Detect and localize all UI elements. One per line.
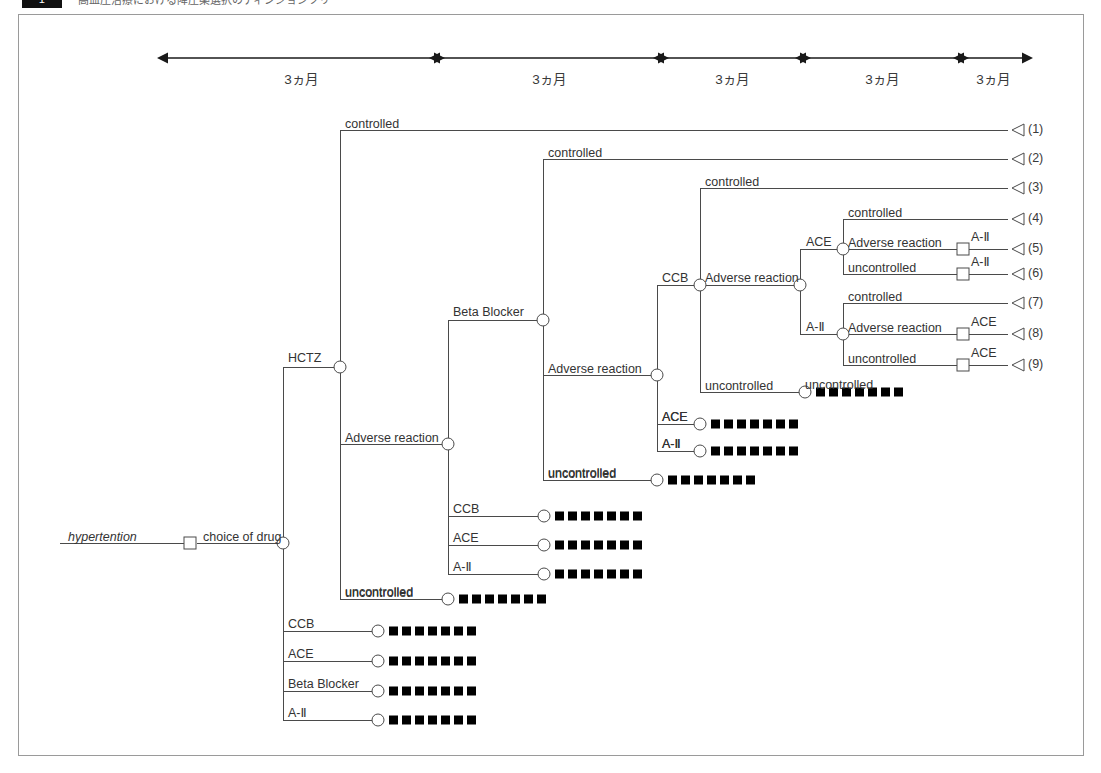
terminal-row-label-hctz-adverse-ccb: CCB <box>453 503 479 516</box>
terminal-row-label-hctz-adverse-ace: ACE <box>453 532 479 545</box>
outcome-label-2: (2) <box>1028 152 1043 165</box>
terminal-row-label-root-ace: ACE <box>288 648 314 661</box>
hctz-controlled-label: controlled <box>345 118 399 131</box>
timeline-label-2: 3ヵ月 <box>532 68 566 88</box>
ccb-controlled-label: controlled <box>705 176 759 189</box>
a2-controlled-label: controlled <box>848 291 902 304</box>
hctz-adverse-label: Adverse reaction <box>345 432 439 445</box>
terminal-row-label-root-beta-blocker: Beta Blocker <box>288 678 359 691</box>
decision-tree-canvas <box>0 0 1101 773</box>
a2-adverse-label: Adverse reaction <box>848 322 942 335</box>
terminal-row-label-root-ccb: CCB <box>288 618 314 631</box>
square-terminal-label-ace-uncontrolled-a2: A-Ⅱ <box>971 256 990 269</box>
outcome-label-9: (9) <box>1028 358 1043 371</box>
terminal-row-label-hctz-adverse-a2: A-Ⅱ <box>453 561 472 574</box>
a2-branch-label: A-Ⅱ <box>806 321 825 334</box>
bb-adverse-label: Adverse reaction <box>548 363 642 376</box>
square-terminal-label-ace-adverse-a2: A-Ⅱ <box>971 231 990 244</box>
bb-label: Beta Blocker <box>453 306 524 319</box>
ccb-uncontrolled-label: uncontrolled <box>705 380 773 393</box>
ace-adverse-label: Adverse reaction <box>848 237 942 250</box>
square-terminal-label-a2-adverse-ace: ACE <box>971 316 997 329</box>
outcome-label-3: (3) <box>1028 181 1043 194</box>
timeline-label-5: 3ヵ月 <box>976 68 1010 88</box>
outcome-label-8: (8) <box>1028 327 1043 340</box>
terminal-row-label-hctz-uncontrolled: uncontrolled <box>345 586 413 599</box>
ccb-adverse-label: Adverse reaction <box>705 272 799 285</box>
outcome-label-7: (7) <box>1028 296 1043 309</box>
outcome-label-6: (6) <box>1028 267 1043 280</box>
root-decision-label: choice of drug <box>203 531 282 544</box>
square-terminal-label-a2-uncontrolled-ace: ACE <box>971 347 997 360</box>
terminal-row-label-ccb-uncontrolled: uncontrolled <box>805 379 873 392</box>
outcome-label-4: (4) <box>1028 212 1043 225</box>
ace-uncontrolled-label: uncontrolled <box>848 262 916 275</box>
ace-controlled-label: controlled <box>848 207 902 220</box>
hctz-label: HCTZ <box>288 352 321 365</box>
ace-branch-label: ACE <box>806 236 832 249</box>
terminal-row-label-root-a2: A-Ⅱ <box>288 707 307 720</box>
terminal-markers <box>389 388 903 725</box>
terminal-row-label-bb-uncontrolled: uncontrolled <box>548 467 616 480</box>
ccb-label: CCB <box>662 272 688 285</box>
bb-controlled-label: controlled <box>548 147 602 160</box>
outcome-label-5: (5) <box>1028 242 1043 255</box>
timeline-label-4: 3ヵ月 <box>865 68 899 88</box>
outcome-triangles <box>1012 124 1024 371</box>
root-label: hypertention <box>68 531 137 544</box>
timeline-label-3: 3ヵ月 <box>715 68 749 88</box>
outcome-label-1: (1) <box>1028 123 1043 136</box>
terminal-row-label-bb-adverse-ace: ACE <box>662 411 688 424</box>
timeline-label-1: 3ヵ月 <box>284 68 318 88</box>
terminal-row-label-bb-adverse-a2: A-Ⅱ <box>662 438 681 451</box>
a2-uncontrolled-label: uncontrolled <box>848 353 916 366</box>
